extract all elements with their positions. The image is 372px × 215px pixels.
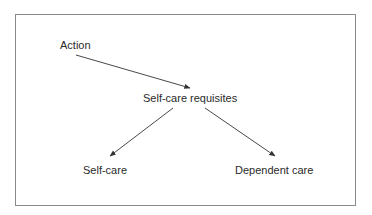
arrow-action-to-requisites	[76, 55, 190, 88]
arrow-requisites-to-selfcare	[110, 108, 173, 156]
node-self-care: Self-care	[83, 164, 127, 176]
node-action: Action	[60, 39, 91, 51]
arrows	[0, 0, 372, 215]
node-dependent-care: Dependent care	[235, 164, 313, 176]
arrow-requisites-to-dependent	[205, 108, 275, 156]
node-self-care-requisites: Self-care requisites	[143, 92, 237, 104]
